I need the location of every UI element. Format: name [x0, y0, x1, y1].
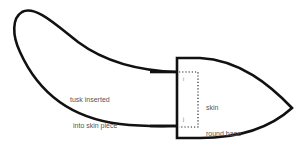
skin-label: skin round base of tusk	[206, 87, 241, 154]
mark-top: i	[183, 76, 184, 82]
tusk-skin-diagram: tusk inserted into skin piece skin round…	[0, 0, 306, 154]
tusk-label-line-2: into skin piece	[70, 122, 117, 131]
tusk-label-line-1: tusk inserted	[70, 96, 117, 105]
mark-bottom: j	[183, 116, 184, 122]
skin-label-line-2: round base	[206, 130, 241, 139]
skin-label-line-1: skin	[206, 104, 241, 113]
tusk-label: tusk inserted into skin piece	[70, 79, 117, 147]
diagram-drawing	[0, 0, 306, 154]
